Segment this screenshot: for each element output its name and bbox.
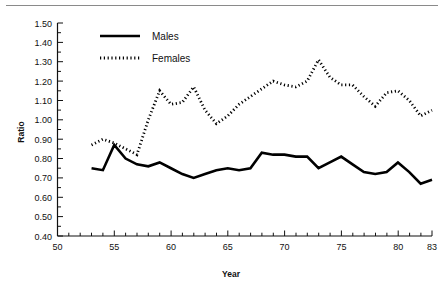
legend-label-males: Males xyxy=(152,31,179,42)
y-tick-label: 0.90 xyxy=(34,135,52,145)
chart-legend: Males Females xyxy=(100,31,190,64)
y-tick-label: 0.70 xyxy=(34,173,52,183)
x-axis-tick-labels: 50 55 60 65 70 75 80 83 xyxy=(52,242,437,252)
legend-label-females: Females xyxy=(152,53,190,64)
y-tick-label: 1.00 xyxy=(34,115,52,125)
ratio-by-year-line-chart: 1.50 1.40 1.30 1.20 1.10 1.00 0.90 0.80 … xyxy=(0,0,444,296)
y-axis-tick-labels: 1.50 1.40 1.30 1.20 1.10 1.00 0.90 0.80 … xyxy=(34,19,52,242)
y-tick-label: 1.10 xyxy=(34,96,52,106)
y-tick-label: 0.50 xyxy=(34,212,52,222)
x-tick-label: 70 xyxy=(280,242,290,252)
x-tick-label: 55 xyxy=(109,242,119,252)
x-axis-title: Year xyxy=(222,269,241,279)
x-tick-label: 65 xyxy=(223,242,233,252)
figure-container: 1.50 1.40 1.30 1.20 1.10 1.00 0.90 0.80 … xyxy=(0,0,444,296)
x-tick-label: 80 xyxy=(393,242,403,252)
x-tick-label: 50 xyxy=(52,242,62,252)
x-tick-label: 75 xyxy=(336,242,346,252)
y-axis-title: Ratio xyxy=(16,121,26,142)
series-line-females xyxy=(92,60,432,155)
y-tick-label: 0.60 xyxy=(34,193,52,203)
y-tick-label: 0.40 xyxy=(34,232,52,242)
series-line-males xyxy=(92,145,432,184)
x-tick-label: 60 xyxy=(166,242,176,252)
y-tick-label: 1.40 xyxy=(34,38,52,48)
y-tick-label: 0.80 xyxy=(34,154,52,164)
y-tick-label: 1.20 xyxy=(34,77,52,87)
y-tick-label: 1.50 xyxy=(34,19,52,29)
y-tick-label: 1.30 xyxy=(34,57,52,67)
x-tick-label: 83 xyxy=(427,242,437,252)
